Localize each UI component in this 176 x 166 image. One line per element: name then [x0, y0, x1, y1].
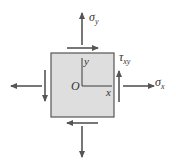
stress-element-diagram: σy σx τxy O y x	[0, 0, 176, 166]
sigma-x-label: σx	[155, 75, 165, 91]
tau-xy-label: τxy	[119, 50, 131, 66]
axis-y-label: y	[83, 55, 89, 67]
sigma-y-label: σy	[89, 10, 99, 26]
origin-label: O	[71, 79, 80, 93]
axis-x-label: x	[105, 86, 111, 98]
